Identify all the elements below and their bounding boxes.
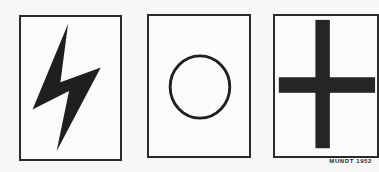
panel-circle <box>147 14 251 158</box>
cross-icon <box>275 16 377 156</box>
panel-lightning <box>19 15 122 161</box>
panel-cross <box>273 14 379 158</box>
circle-icon <box>149 16 249 156</box>
lightning-bolt-icon <box>21 17 120 159</box>
credit-caption: MUNDT 1952 <box>329 158 372 164</box>
